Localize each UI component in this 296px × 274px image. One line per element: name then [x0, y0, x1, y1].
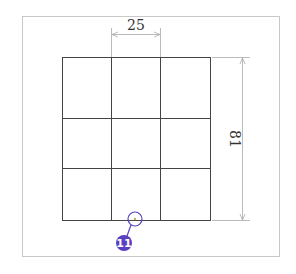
dimension-horizontal-label: 25 — [127, 17, 145, 33]
drawing-canvas: 25 81 11 — [0, 0, 296, 274]
callout-leader — [127, 225, 131, 236]
callout-11[interactable]: 11 — [116, 212, 142, 251]
grid — [63, 58, 211, 221]
callout-number: 11 — [116, 237, 131, 250]
dimension-vertical-label: 81 — [227, 130, 243, 148]
callout-marker-dot — [134, 218, 136, 220]
